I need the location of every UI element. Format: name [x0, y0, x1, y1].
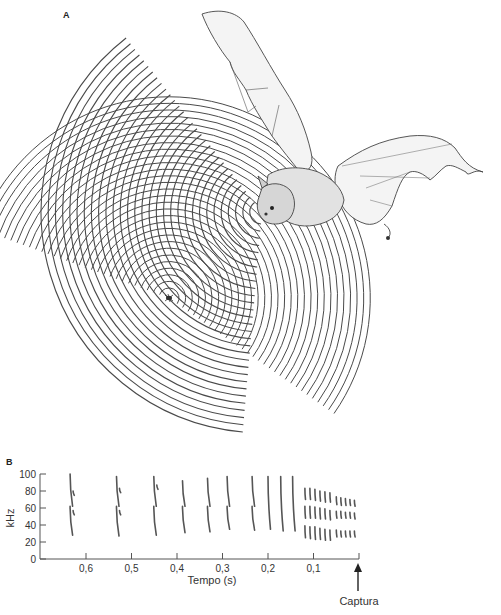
call-segment	[117, 477, 120, 507]
call-terminal	[330, 493, 331, 541]
call-segment	[281, 477, 284, 531]
call-segment	[315, 489, 316, 500]
call-approach	[252, 477, 255, 530]
call-approach	[281, 477, 284, 531]
call-terminal	[341, 498, 342, 537]
x-axis: 0,60,50,40,30,20,1	[40, 553, 359, 574]
call-segment	[227, 477, 230, 507]
y-tick-label: 100	[19, 469, 36, 480]
x-tick-label: 0,3	[216, 563, 230, 574]
y-tick-label: 20	[25, 537, 37, 548]
call-segment	[305, 526, 306, 538]
call-terminal	[320, 491, 321, 540]
call-segment	[341, 498, 342, 506]
call-segment	[293, 477, 296, 531]
call-segment	[252, 477, 255, 507]
call-terminal	[354, 500, 355, 537]
call-terminal	[315, 489, 316, 539]
call-approach	[183, 481, 186, 533]
x-tick-label: 0,5	[125, 563, 139, 574]
call-segment	[345, 531, 346, 537]
call-segment	[315, 507, 316, 518]
call-terminal	[305, 488, 306, 537]
call-terminal	[350, 500, 351, 537]
call-segment	[320, 528, 321, 539]
call-segment	[154, 506, 157, 535]
call-segment	[305, 488, 306, 499]
call-segment	[70, 474, 73, 506]
call-segment	[73, 511, 74, 515]
call-segment	[305, 506, 306, 518]
call-segment	[325, 509, 326, 519]
call-segment	[325, 529, 326, 540]
y-axis: 020406080100	[19, 469, 46, 565]
call-segment	[154, 477, 157, 507]
call-terminal	[336, 497, 337, 537]
call-segment	[354, 500, 355, 506]
call-segment	[73, 491, 74, 495]
call-segment	[330, 511, 331, 520]
call-segment	[208, 506, 211, 532]
call-approach	[208, 478, 211, 532]
call-segment	[315, 527, 316, 540]
call-segment	[354, 513, 355, 519]
call-segment	[310, 527, 311, 539]
call-segment	[320, 491, 321, 501]
call-segment	[227, 506, 230, 529]
call-approach	[293, 477, 296, 531]
call-terminal	[310, 488, 311, 538]
capture-label: Captura	[339, 595, 379, 607]
y-tick-label: 80	[25, 486, 37, 497]
call-segment	[336, 530, 337, 537]
call-search	[154, 477, 158, 536]
call-segment	[336, 511, 337, 518]
call-approach	[268, 477, 271, 530]
call-segment	[208, 478, 211, 506]
y-axis-title: kHz	[4, 509, 16, 528]
x-axis-title: Tempo (s)	[188, 574, 237, 586]
call-segment	[354, 531, 355, 537]
call-segment	[350, 512, 351, 518]
capture-arrowhead-icon	[354, 563, 362, 572]
spectrogram-chart: 020406080100 0,60,50,40,30,20,1 kHz Temp…	[0, 0, 501, 615]
call-approach	[227, 477, 230, 530]
x-tick-label: 0,6	[79, 563, 93, 574]
call-terminal	[325, 492, 326, 540]
call-segment	[117, 506, 120, 536]
call-segment	[336, 497, 337, 505]
call-segment	[157, 485, 158, 489]
call-segment	[252, 506, 255, 530]
call-segment	[325, 492, 326, 502]
call-segment	[330, 530, 331, 540]
x-tick-label: 0,2	[261, 563, 275, 574]
call-segment	[183, 481, 186, 507]
call-segment	[120, 488, 121, 492]
call-segment	[341, 511, 342, 518]
call-search	[70, 474, 74, 535]
call-segment	[350, 531, 351, 537]
call-segment	[345, 499, 346, 506]
call-segment	[345, 512, 346, 518]
call-segment	[341, 531, 342, 537]
call-segment	[350, 500, 351, 506]
call-terminal	[345, 499, 346, 537]
call-search	[117, 477, 121, 536]
call-segment	[120, 511, 121, 515]
y-tick-label: 0	[30, 554, 36, 565]
x-tick-label: 0,4	[170, 563, 184, 574]
capture-annotation: Captura	[339, 563, 379, 607]
call-segment	[268, 477, 271, 530]
call-segment	[320, 508, 321, 519]
y-tick-label: 40	[25, 520, 37, 531]
call-segment	[310, 488, 311, 499]
call-segment	[183, 506, 186, 532]
call-marks	[70, 474, 355, 540]
x-tick-label: 0,1	[307, 563, 321, 574]
y-tick-label: 60	[25, 503, 37, 514]
call-segment	[330, 493, 331, 502]
call-segment	[70, 506, 73, 535]
call-segment	[310, 506, 311, 518]
